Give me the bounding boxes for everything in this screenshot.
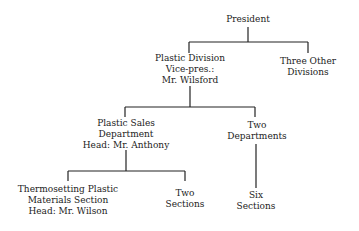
- node-label: Head: Mr. Wilson: [18, 206, 118, 217]
- node-label: Vice-pres.:: [155, 64, 225, 75]
- node-label: Plastic Sales: [83, 118, 169, 129]
- node-plastic-sales-department: Plastic Sales Department Head: Mr. Antho…: [83, 118, 169, 151]
- node-label: Divisions: [280, 67, 336, 78]
- node-label: Two: [227, 120, 286, 131]
- node-two-departments: Two Departments: [227, 120, 286, 142]
- node-label: Department: [83, 129, 169, 140]
- node-label: Three Other: [280, 56, 336, 67]
- node-label: Two: [166, 188, 205, 199]
- node-label: Sections: [237, 201, 276, 212]
- node-label: Materials Section: [18, 195, 118, 206]
- node-six-sections: Six Sections: [237, 190, 276, 212]
- node-label: President: [226, 14, 270, 25]
- node-two-sections: Two Sections: [166, 188, 205, 210]
- node-label: Head: Mr. Anthony: [83, 140, 169, 151]
- node-label: Six: [237, 190, 276, 201]
- node-label: Thermosetting Plastic: [18, 184, 118, 195]
- node-label: Sections: [166, 199, 205, 210]
- node-label: Plastic Division: [155, 53, 225, 64]
- node-plastic-division: Plastic Division Vice-pres.: Mr. Wilsfor…: [155, 53, 225, 86]
- node-president: President: [226, 14, 270, 25]
- node-thermosetting-section: Thermosetting Plastic Materials Section …: [18, 184, 118, 217]
- node-label: Departments: [227, 131, 286, 142]
- node-three-other-divisions: Three Other Divisions: [280, 56, 336, 78]
- node-label: Mr. Wilsford: [155, 75, 225, 86]
